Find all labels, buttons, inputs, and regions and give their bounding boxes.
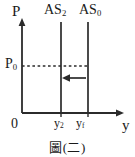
p0-base: P: [5, 56, 13, 71]
figure-caption: 圖(二): [0, 137, 135, 156]
chart-canvas: [0, 0, 135, 157]
aggregate-supply-figure: P y 0 P0 AS2 AS0 y2 yf 圖(二): [0, 0, 135, 157]
as2-label: AS2: [44, 3, 66, 17]
p0-label: P0: [5, 57, 17, 71]
y-axis: [22, 110, 124, 117]
as0-base: AS: [79, 2, 97, 17]
y2-subscript: 2: [60, 121, 64, 130]
p-axis-label: P: [12, 4, 20, 19]
as0-subscript: 0: [97, 8, 101, 18]
yf-subscript: f: [82, 121, 84, 130]
origin-label: 0: [11, 117, 18, 131]
as0-label: AS0: [79, 3, 101, 17]
y-axis-label: y: [122, 118, 130, 133]
y2-tick-label: y2: [54, 117, 64, 130]
p0-subscript: 0: [13, 62, 17, 72]
yf-tick-label: yf: [76, 117, 84, 130]
as2-subscript: 2: [62, 8, 66, 18]
leftward-shift-arrow: [62, 74, 86, 82]
as2-base: AS: [44, 2, 62, 17]
